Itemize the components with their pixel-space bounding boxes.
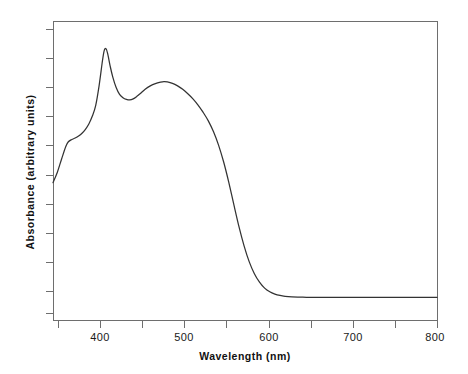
figure-background <box>0 0 468 374</box>
x-tick-label-600: 600 <box>259 331 279 343</box>
x-tick-label-500: 500 <box>174 331 194 343</box>
y-axis-title: Absorbance (arbitrary units) <box>24 94 36 249</box>
x-axis-title: Wavelength (nm) <box>199 350 291 362</box>
x-tick-label-700: 700 <box>343 331 363 343</box>
x-tick-label-800: 800 <box>425 331 445 343</box>
spectrum-chart-page: 400 500 600 700 800 Wavelength (nm) Abso… <box>0 0 468 374</box>
absorption-spectrum-figure: 400 500 600 700 800 Wavelength (nm) Abso… <box>0 0 468 374</box>
x-tick-label-400: 400 <box>90 331 110 343</box>
